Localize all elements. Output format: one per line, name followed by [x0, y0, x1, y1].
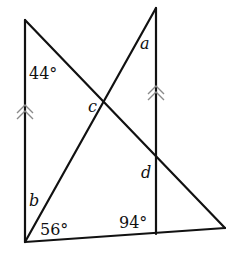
angle-label-44: 44°	[29, 64, 57, 83]
angle-label-c: c	[88, 97, 97, 116]
diagonal-line-top-left	[25, 20, 225, 228]
diagonal-line-bottom-left	[25, 8, 156, 242]
angle-label-b: b	[29, 191, 39, 210]
angle-label-a: a	[140, 34, 150, 53]
angle-label-d: d	[141, 163, 151, 182]
angle-label-94: 94°	[119, 213, 147, 232]
angle-label-56: 56°	[40, 220, 68, 239]
geometry-diagram: 44° a c d b 56° 94°	[0, 0, 233, 256]
